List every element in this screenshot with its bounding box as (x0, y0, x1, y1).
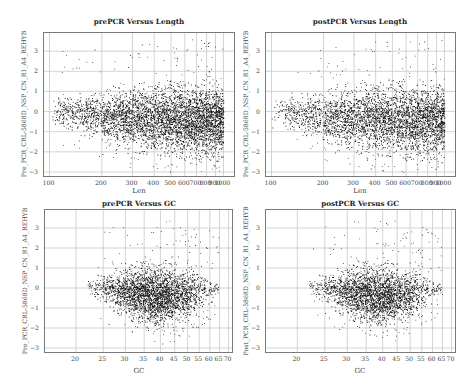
x-tick-label: 300 (347, 179, 359, 186)
x-tick-label: 1000 (215, 179, 231, 186)
x-axis-label: Len (132, 187, 145, 195)
x-tick-label: 70 (224, 355, 232, 362)
x-tick-label: 50 (405, 355, 413, 362)
y-tick-label: −3 (29, 167, 38, 174)
plot-area (265, 32, 456, 177)
x-tick-label: 65 (437, 355, 445, 362)
chart-title: postPCR Versus Length (313, 17, 407, 26)
x-tick-label: 60 (205, 355, 213, 362)
scatter-plot (44, 33, 234, 176)
x-tick-label: 100 (265, 179, 277, 186)
x-tick-label: 100 (43, 179, 55, 186)
y-tick-label: −1 (29, 127, 38, 134)
y-tick-label: 2 (35, 244, 39, 251)
y-tick-label: 2 (256, 67, 260, 74)
y-tick-label: −3 (251, 344, 260, 351)
y-tick-label: −2 (251, 324, 260, 331)
x-tick-label: 30 (120, 355, 128, 362)
y-axis-label: Pre_PCR_CRL-5868D_NSP_CN_R1_A4_REHYB (21, 208, 28, 354)
y-tick-label: −3 (251, 167, 260, 174)
y-tick-label: 0 (34, 107, 38, 114)
x-tick-label: 55 (194, 355, 202, 362)
x-tick-label: 25 (320, 355, 328, 362)
y-axis-label: Pre_PCR_CRL-5868D_NSP_CN_R1_A4_REHYB (242, 31, 249, 177)
x-tick-label: 35 (361, 355, 369, 362)
y-tick-label: 3 (35, 224, 39, 231)
data-points (52, 39, 224, 172)
x-tick-label: 400 (147, 179, 159, 186)
x-tick-label: 60 (428, 355, 436, 362)
plot-area (44, 209, 233, 353)
x-tick-label: 600 (399, 179, 411, 186)
chart-title: prePCR Versus Length (94, 17, 185, 26)
x-tick-label: 20 (71, 355, 79, 362)
scatter-plot (266, 33, 455, 176)
y-tick-label: 0 (35, 284, 39, 291)
x-tick-label: 200 (317, 179, 329, 186)
x-tick-label: 600 (178, 179, 190, 186)
y-tick-label: −3 (30, 344, 39, 351)
y-tick-label: −2 (251, 147, 260, 154)
x-tick-label: 200 (95, 179, 107, 186)
y-tick-label: 3 (34, 47, 38, 54)
y-tick-label: −2 (29, 147, 38, 154)
x-tick-label: 25 (98, 355, 106, 362)
y-axis-label: Pre_PCR_CRL-5868D_NSP_CN_R1_A4_REHYB (20, 31, 27, 177)
y-tick-label: −1 (251, 127, 260, 134)
x-tick-label: 500 (164, 179, 176, 186)
y-tick-label: 0 (256, 284, 260, 291)
x-tick-label: 50 (183, 355, 191, 362)
x-tick-label: 40 (378, 355, 386, 362)
x-tick-label: 1000 (436, 179, 452, 186)
y-tick-label: 3 (256, 224, 260, 231)
x-tick-label: 35 (139, 355, 147, 362)
x-tick-label: 20 (292, 355, 300, 362)
x-axis-label: Len (353, 187, 366, 195)
scatter-plot (266, 210, 455, 352)
x-axis-label: GC (134, 367, 145, 375)
x-tick-label: 65 (215, 355, 223, 362)
y-tick-label: −2 (30, 324, 39, 331)
y-tick-label: 1 (35, 264, 39, 271)
x-tick-label: 45 (392, 355, 400, 362)
y-tick-label: −1 (251, 304, 260, 311)
y-tick-label: 0 (256, 107, 260, 114)
y-tick-label: 2 (256, 244, 260, 251)
data-points (272, 40, 446, 173)
chart-title: postPCR Versus GC (321, 199, 399, 208)
y-axis-label: Post_PCR_CRL-5868D_NSP_CN_R1_A4_REHYB (242, 207, 249, 356)
chart-title: prePCR Versus GC (102, 199, 176, 208)
y-tick-label: 2 (34, 67, 38, 74)
y-tick-label: 1 (34, 87, 38, 94)
x-tick-label: 40 (155, 355, 163, 362)
x-tick-label: 70 (447, 355, 455, 362)
y-tick-label: 3 (256, 47, 260, 54)
y-tick-label: 1 (256, 264, 260, 271)
x-tick-label: 500 (385, 179, 397, 186)
x-axis-label: GC (355, 367, 366, 375)
plot-area (265, 209, 456, 353)
scatter-plot (45, 210, 232, 352)
x-tick-label: 55 (417, 355, 425, 362)
plot-area (43, 32, 235, 177)
x-tick-label: 45 (170, 355, 178, 362)
data-points (309, 221, 443, 341)
x-tick-label: 300 (126, 179, 138, 186)
y-tick-label: −1 (30, 304, 39, 311)
x-tick-label: 400 (369, 179, 381, 186)
x-tick-label: 30 (342, 355, 350, 362)
y-tick-label: 1 (256, 87, 260, 94)
